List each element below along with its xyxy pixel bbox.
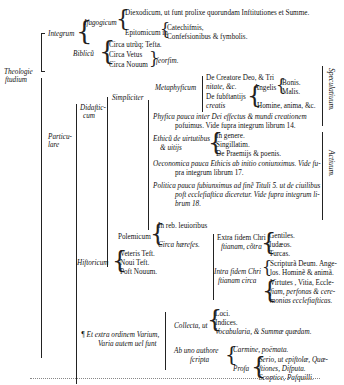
biblicum-item-3: Circa Nouum: [109, 61, 148, 69]
speculativum-bracket: [322, 66, 323, 126]
activum-label: Actiuum.: [327, 150, 336, 177]
root-bracket-lower: [41, 78, 42, 358]
ethica-item-1: In genere.: [216, 132, 245, 140]
intra-item-1: Scripturã Deum. Ange-: [270, 260, 337, 268]
ethica-item-3: De Praemijs & poenis.: [216, 150, 281, 158]
oeconomica-text: Oeconomica pauca Ethicis ab initio coniu…: [153, 160, 321, 168]
root-bracket-upper: [41, 33, 45, 72]
angelis-malis: Malis.: [282, 88, 300, 96]
homine-text: Homine, anima, &c.: [257, 102, 315, 110]
prosa-item-2: ftiones, Difputa.: [259, 365, 306, 373]
didacticum-label: Didaftic-: [80, 104, 106, 112]
integrum-label: Integrum: [48, 30, 74, 38]
politica-text-2: poft ecclefiaftica diceretur. Vide fupra…: [175, 191, 320, 199]
extra-fidem-label: Extra fidem Chri: [217, 234, 266, 242]
collecta-label: Collecta, ut: [174, 322, 208, 330]
politica-text-3: brum 18.: [175, 200, 201, 208]
de-creatore-text: De Creatore Deo, & Tri: [206, 74, 274, 82]
catechismis-text: Catechifmis,: [167, 24, 204, 32]
ethica-label-2: & uitijs: [160, 144, 182, 152]
extra-item-2: Iudæos.: [269, 241, 292, 249]
prosa-label: Profa: [233, 365, 249, 373]
ethica-label: Ethicũ de uirtutibus: [153, 135, 210, 143]
collecta-item-1: Loci.: [215, 310, 230, 318]
didacticum-label-2: cum: [83, 112, 95, 120]
heresies-bracket: [213, 234, 214, 300]
physica-text: Phyfica pauca inter Dei effectus & mundi…: [153, 113, 307, 121]
activum-bracket: [322, 132, 323, 220]
collecta-item-2: Indices.: [215, 319, 238, 327]
diexodicum-text: Diexodicum, ut funt prolixe quorundam In…: [125, 9, 309, 17]
root-label: Theologie: [4, 68, 33, 76]
confessionibus-text: Confefsionibus & fymbolis.: [167, 33, 247, 41]
extra-item-3: Turcas.: [269, 250, 290, 258]
intra-item-3: Virtutes , Vitia, Eccle-: [270, 279, 334, 287]
intra-fidem-label: Intra fidem Chri: [214, 268, 261, 276]
physica-text-2: pofuimus. Vide fupra integrum librum 14.: [175, 122, 296, 130]
particulare-label: Particu-: [48, 133, 72, 141]
varium-label-2: Varia autem uel funt: [98, 340, 157, 348]
ab-uno-label: Ab uno authore: [174, 347, 218, 355]
extra-fidem-label-2: ftianam, cõtra: [221, 243, 262, 251]
metaphysicum-label: Metaphyficum: [155, 84, 196, 92]
didacticum-bracket: [107, 97, 108, 267]
ethica-item-2: Singillatim.: [216, 141, 250, 149]
extra-item-1: Gentiles.: [269, 232, 295, 240]
particulare-bracket: [76, 104, 77, 384]
collecta-item-3: Vocabularia, & Summæ quædam.: [215, 328, 311, 336]
polemicum-label: Polemicum: [118, 233, 151, 241]
politica-text: Politica pauca fubiunximus ad finẽ Titul…: [153, 182, 320, 190]
intra-item-2: los. Hominẽ & animã.: [270, 269, 334, 277]
intra-fidem-label-2: ftianam circa: [218, 277, 256, 285]
historicum-item-3: Poft Nouum.: [120, 268, 157, 276]
polemicum-item-2: Circa hærefes.: [158, 241, 200, 249]
page-footer-rule: [30, 378, 320, 383]
biblicum-item-2: Circa Vetus: [109, 51, 142, 59]
isagogicum-label: Ifagogicum: [84, 19, 117, 27]
ab-uno-label-2: fcripta: [190, 356, 209, 364]
polemicum-item-1: In reb. leuioribus: [158, 222, 207, 230]
de-creatore-text-2: nitate, &c.: [206, 83, 237, 91]
varium-bracket: [165, 312, 166, 370]
speculativum-label: Speculatiuum.: [327, 68, 336, 111]
angelis-bonis: Bonis.: [282, 79, 301, 87]
historicum-label: Hiftoricum: [77, 259, 109, 267]
de-substantiis-label: De fubftantijs: [206, 93, 246, 101]
root-label-2: ftudium: [5, 76, 27, 84]
angelis-label: Angelis: [254, 84, 276, 92]
seorsim-text: feorfim.: [156, 57, 179, 65]
biblicum-item-1: Circa utrũq; Tefta.: [109, 41, 162, 49]
de-substantiis-label-2: creatis: [206, 102, 225, 110]
intra-item-4: fiam, perfonas & cere-: [270, 288, 335, 296]
simpliciter-bracket: [148, 100, 149, 230]
biblicum-label: Biblicũ: [73, 50, 94, 58]
simpliciter-label: Simpliciter: [112, 94, 144, 102]
historicum-item-1: Veteris Teft.: [120, 250, 155, 258]
varium-label: ¶ Et extra ordinem Varium,: [81, 331, 159, 339]
oeconomica-text-2: pra integrum librum 17.: [175, 169, 244, 177]
particulare-label-2: lare: [48, 141, 59, 149]
metaphysicum-bracket: [202, 76, 203, 112]
historicum-item-2: Noui Teft.: [120, 259, 149, 267]
prosa-item-1: Serio, ut epiftolæ, Quæ-: [259, 356, 328, 364]
intra-item-5: monias ecclefiafticas.: [270, 297, 332, 305]
